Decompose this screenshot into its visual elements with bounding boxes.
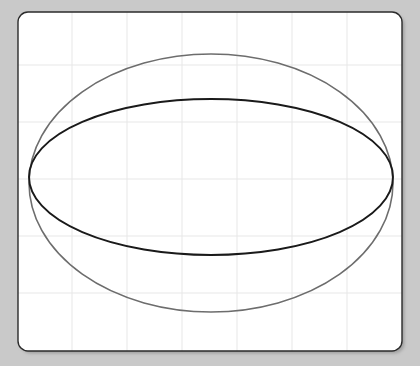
- ellipse-plot: [0, 0, 420, 366]
- card-group: [18, 12, 402, 351]
- plot-stage: [0, 0, 420, 366]
- card-surface: [18, 12, 402, 351]
